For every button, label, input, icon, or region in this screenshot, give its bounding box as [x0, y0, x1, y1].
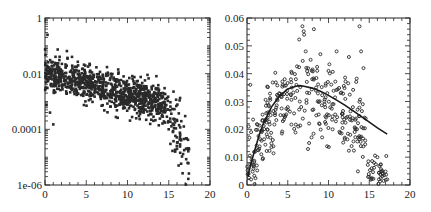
- data-point: [61, 70, 64, 73]
- data-point: [54, 91, 57, 94]
- data-point: [126, 109, 129, 112]
- data-point: [88, 75, 91, 78]
- data-point: [316, 69, 319, 72]
- data-point: [151, 96, 154, 99]
- data-point: [163, 120, 166, 123]
- data-point: [86, 85, 89, 88]
- data-point: [331, 118, 334, 121]
- data-point: [99, 76, 102, 79]
- data-point: [77, 61, 80, 64]
- data-point: [170, 112, 173, 115]
- data-point: [275, 119, 278, 122]
- data-point: [59, 89, 62, 92]
- data-point: [163, 87, 166, 90]
- data-point: [135, 117, 138, 120]
- data-point: [260, 153, 263, 156]
- x-tick-label: 0: [244, 188, 250, 200]
- data-point: [342, 141, 345, 144]
- x-tick-label: 10: [323, 188, 335, 200]
- data-point: [86, 93, 89, 96]
- data-point: [122, 97, 125, 100]
- data-point: [66, 86, 69, 89]
- data-point: [54, 56, 57, 59]
- data-point: [178, 99, 181, 102]
- data-point: [276, 84, 279, 87]
- data-point: [60, 72, 63, 75]
- data-point: [111, 84, 114, 87]
- data-point: [100, 104, 103, 107]
- data-point: [131, 75, 134, 78]
- data-point: [180, 162, 183, 165]
- data-point: [109, 105, 112, 108]
- data-point: [302, 30, 305, 33]
- x-tick-label: 15: [163, 188, 175, 200]
- data-point: [321, 94, 324, 97]
- data-point: [113, 94, 116, 97]
- data-point: [264, 98, 267, 101]
- data-point: [172, 140, 175, 143]
- data-point: [167, 108, 170, 111]
- data-point: [251, 170, 254, 173]
- data-point: [73, 69, 76, 72]
- y-tick-label: 0.03: [225, 96, 245, 108]
- data-point: [351, 106, 354, 109]
- data-point: [150, 118, 153, 121]
- data-point: [106, 66, 109, 69]
- data-point: [275, 104, 278, 107]
- data-point: [69, 91, 72, 94]
- data-point: [316, 65, 319, 68]
- data-point: [358, 106, 361, 109]
- data-point: [61, 63, 64, 66]
- data-point: [170, 125, 173, 128]
- data-point: [112, 78, 115, 81]
- data-point: [173, 108, 176, 111]
- data-point: [342, 84, 345, 87]
- data-point: [250, 131, 253, 134]
- right-scatter-points: [246, 25, 389, 186]
- data-point: [324, 96, 327, 99]
- x-tick-label: 20: [405, 188, 417, 200]
- data-point: [280, 107, 283, 110]
- left-axes: 051015201e-060.00010.011: [12, 12, 216, 200]
- data-point: [293, 112, 296, 115]
- data-point: [77, 64, 80, 67]
- data-point: [292, 91, 295, 94]
- data-point: [327, 69, 330, 72]
- data-point: [290, 98, 293, 101]
- data-point: [89, 92, 92, 95]
- data-point: [46, 34, 49, 37]
- y-tick-label: 1: [37, 12, 43, 24]
- data-point: [50, 75, 53, 78]
- data-point: [271, 139, 274, 142]
- data-point: [155, 75, 158, 78]
- data-point: [327, 127, 330, 130]
- data-point: [350, 145, 353, 148]
- data-point: [138, 106, 141, 109]
- data-point: [133, 83, 136, 86]
- left-scatter-points: [44, 34, 191, 186]
- data-point: [136, 84, 139, 87]
- data-point: [294, 78, 297, 81]
- data-point: [115, 91, 118, 94]
- data-point: [151, 103, 154, 106]
- data-point: [96, 76, 99, 79]
- data-point: [117, 71, 120, 74]
- data-point: [296, 89, 299, 92]
- data-point: [113, 102, 116, 105]
- data-point: [125, 96, 128, 99]
- data-point: [141, 82, 144, 85]
- data-point: [347, 56, 350, 59]
- data-point: [142, 111, 145, 114]
- data-point: [294, 97, 297, 100]
- data-point: [355, 80, 358, 83]
- y-tick-label: 0.04: [225, 68, 245, 80]
- data-point: [274, 71, 277, 74]
- data-point: [356, 170, 359, 173]
- data-point: [279, 114, 282, 117]
- data-point: [110, 73, 113, 76]
- y-tick-label: 0.06: [225, 12, 245, 24]
- data-point: [359, 98, 362, 101]
- data-point: [186, 148, 189, 151]
- data-point: [148, 91, 151, 94]
- data-point: [348, 93, 351, 96]
